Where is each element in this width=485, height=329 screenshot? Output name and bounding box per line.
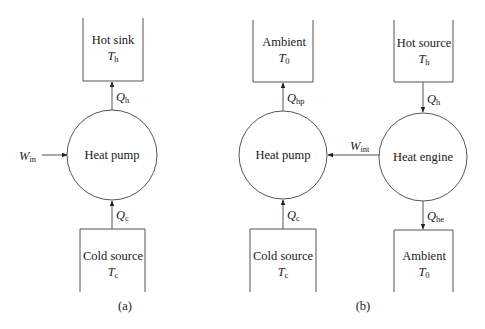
heat-pump-b-label: Heat pump [255, 148, 310, 162]
caption-b: (b) [356, 299, 371, 313]
cold-source-reservoir-b: Cold source Tc [250, 229, 316, 292]
diagram-b: Ambient T0 Qhp Heat pump Qc Cold source … [239, 20, 467, 313]
heat-pump-a-label: Heat pump [84, 148, 139, 162]
hot-source-label: Hot source [397, 36, 452, 50]
heat-pump-diagrams: Hot sink Th Qh Heat pump Win Qc Cold sou… [0, 0, 485, 329]
work-in-label: Win [19, 149, 37, 164]
hot-sink-temp: Th [107, 49, 119, 64]
hot-sink-reservoir: Hot sink Th [83, 18, 143, 81]
q-hot-label: Qh [116, 90, 130, 105]
q-h-label: Qh [427, 92, 441, 107]
ambient-top-temp: T0 [278, 51, 289, 66]
heat-pump-b: Heat pump [239, 111, 327, 199]
cold-source-b-temp: Tc [278, 265, 289, 280]
ambient-top-label: Ambient [262, 35, 306, 49]
q-he-label: Qhe [427, 209, 444, 224]
cold-source-a-label: Cold source [83, 249, 144, 263]
ambient-top-reservoir: Ambient T0 [253, 20, 313, 82]
heat-pump-a: Heat pump [67, 110, 157, 200]
hot-sink-label: Hot sink [92, 33, 135, 47]
ambient-bottom-reservoir: Ambient T0 [394, 230, 453, 292]
diagram-a: Hot sink Th Qh Heat pump Win Qc Cold sou… [19, 18, 157, 313]
cold-source-a-temp: Tc [108, 265, 119, 280]
q-cold-label: Qc [116, 208, 129, 223]
ambient-bottom-label: Ambient [402, 249, 446, 263]
heat-engine: Heat engine [379, 113, 467, 201]
hot-source-reservoir: Hot source Th [394, 20, 453, 82]
cold-source-b-label: Cold source [253, 249, 314, 263]
hot-source-temp: Th [418, 52, 430, 67]
heat-engine-label: Heat engine [393, 150, 453, 164]
ambient-bottom-temp: T0 [418, 265, 429, 280]
work-int-label: Wint [350, 139, 370, 154]
caption-a: (a) [118, 299, 132, 313]
q-hp-label: Qhp [287, 91, 305, 106]
q-c-label: Qc [287, 208, 300, 223]
cold-source-reservoir-a: Cold source Tc [80, 229, 145, 292]
